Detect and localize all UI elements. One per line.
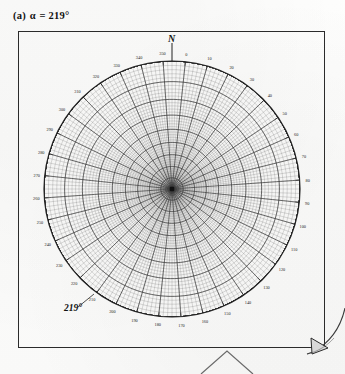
stereonet-svg: 0102030405060708090100110120130140150160… — [18, 31, 325, 348]
azimuth-tick-label: 50 — [283, 111, 287, 116]
center-marker — [170, 187, 174, 191]
azimuth-tick-label: 120 — [279, 267, 285, 272]
azimuth-tick-label: 330 — [113, 63, 119, 68]
next-figure-chevron — [197, 348, 257, 374]
azimuth-tick-label: 310 — [74, 89, 80, 94]
azimuth-tick-label: 80 — [306, 178, 310, 183]
azimuth-tick-label: 130 — [263, 285, 269, 290]
azimuth-tick-label: 230 — [56, 263, 62, 268]
azimuth-tick-label: 250 — [37, 220, 43, 225]
azimuth-tick-label: 20 — [229, 65, 233, 70]
azimuth-tick-label: 240 — [45, 242, 51, 247]
azimuth-tick-label: 190 — [131, 318, 137, 323]
azimuth-tick-label: 290 — [47, 127, 53, 132]
azimuth-tick-label: 40 — [268, 93, 272, 98]
azimuth-tick-label: 160 — [202, 319, 208, 324]
azimuth-tick-label: 150 — [224, 311, 230, 316]
azimuth-tick-label: 30 — [250, 77, 254, 82]
caption-prefix: (a) — [13, 10, 26, 21]
azimuth-tick-label: 110 — [291, 247, 297, 252]
azimuth-tick-label: 10 — [207, 56, 211, 61]
azimuth-tick-label: 70 — [302, 154, 306, 159]
azimuth-tick-label: 300 — [59, 107, 65, 112]
azimuth-tick-label: 60 — [294, 132, 298, 137]
azimuth-tick-label: 260 — [33, 196, 39, 201]
azimuth-tick-label: 340 — [136, 55, 142, 60]
azimuth-tick-label: 200 — [109, 309, 115, 314]
azimuth-tick-label: 220 — [71, 281, 77, 286]
azimuth-tick-label: 140 — [245, 300, 251, 305]
azimuth-tick-label: 180 — [155, 322, 161, 327]
azimuth-tick-label: 280 — [38, 150, 44, 155]
caption-equals: = — [40, 10, 46, 21]
azimuth-tick-label: 90 — [305, 201, 309, 206]
north-direction-label: N — [168, 33, 175, 44]
stereonet-diagram: 0102030405060708090100110120130140150160… — [18, 31, 325, 348]
alpha-angle-annotation: 219° — [64, 303, 82, 313]
azimuth-tick-label: 100 — [300, 224, 306, 229]
azimuth-tick-label: 320 — [93, 74, 99, 79]
azimuth-tick-label: 0 — [185, 52, 187, 57]
azimuth-tick-label: 270 — [34, 173, 40, 178]
azimuth-tick-label: 350 — [159, 51, 165, 56]
alpha-symbol: α — [29, 10, 37, 21]
azimuth-tick-label: 170 — [178, 323, 184, 328]
figure-caption: (a) α = 219° — [13, 10, 69, 21]
caption-value: 219° — [49, 10, 70, 21]
